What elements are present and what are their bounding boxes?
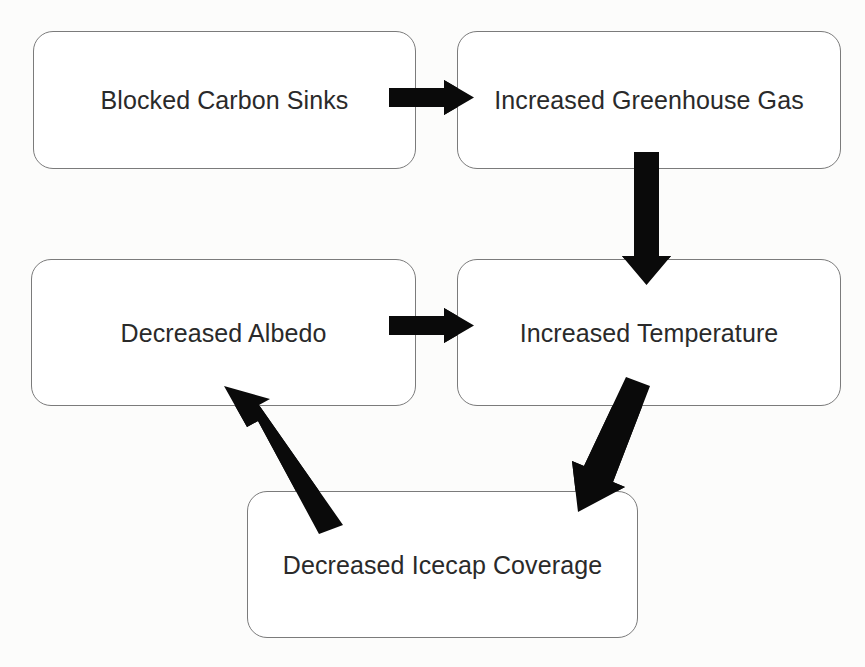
node-blocked-carbon-sinks[interactable]: Blocked Carbon Sinks: [33, 31, 416, 169]
node-decreased-icecap-coverage[interactable]: Decreased Icecap Coverage: [247, 491, 638, 638]
node-label: Decreased Albedo: [107, 318, 341, 348]
node-label: Increased Greenhouse Gas: [480, 85, 818, 115]
node-label: Decreased Icecap Coverage: [269, 550, 616, 580]
flowchart-canvas: Blocked Carbon Sinks Increased Greenhous…: [0, 0, 865, 667]
node-label: Blocked Carbon Sinks: [87, 85, 363, 115]
node-increased-temperature[interactable]: Increased Temperature: [457, 259, 841, 406]
node-label: Increased Temperature: [506, 318, 793, 348]
node-decreased-albedo[interactable]: Decreased Albedo: [31, 259, 416, 406]
node-increased-greenhouse-gas[interactable]: Increased Greenhouse Gas: [457, 31, 841, 169]
